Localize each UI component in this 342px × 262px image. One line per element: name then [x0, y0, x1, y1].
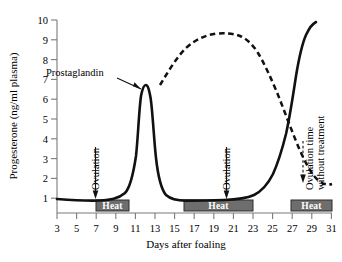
x-tick-label-3: 3 — [54, 223, 59, 234]
x-tick-label-29: 29 — [307, 223, 318, 234]
x-axis: 3 5 7 9 11 13 15 17 19 21 23 25 27 29 31… — [54, 213, 336, 250]
x-tick-label-27: 27 — [287, 223, 298, 234]
heat-band-1-label: Heat — [102, 201, 123, 211]
progesterone-chart: 10 9 8 7 6 5 4 3 2 1 Progesterone (ng/ml… — [0, 0, 342, 262]
x-tick-label-7: 7 — [94, 223, 99, 234]
y-tick-label-2: 2 — [43, 173, 48, 184]
x-tick-label-23: 23 — [248, 223, 259, 234]
x-axis-title: Days after foaling — [146, 238, 226, 250]
x-tick-label-25: 25 — [267, 223, 278, 234]
y-tick-label-5: 5 — [43, 114, 48, 125]
x-tick-label-31: 31 — [326, 223, 337, 234]
annotation-ovulation-1-arrowhead — [93, 191, 99, 200]
y-tick-label-10: 10 — [38, 15, 49, 26]
annotation-prostaglandin: Prostaglandin — [46, 67, 141, 89]
annotation-ovulation-2-arrowhead — [224, 191, 230, 200]
annotation-ovulation-without-treatment: Ovulation time without treatment — [300, 116, 326, 190]
x-tick-label-15: 15 — [169, 223, 180, 234]
annotation-ovulation-without-treatment-line1: Ovulation time — [304, 126, 315, 190]
y-tick-label-1: 1 — [43, 193, 48, 204]
x-tick-label-19: 19 — [209, 223, 220, 234]
y-tick-label-6: 6 — [43, 94, 48, 105]
annotation-ovulation-without-treatment-line2: without treatment — [315, 116, 326, 190]
annotation-prostaglandin-label: Prostaglandin — [46, 67, 104, 78]
y-axis: 10 9 8 7 6 5 4 3 2 1 Progesterone (ng/ml… — [7, 15, 57, 213]
x-tick-label-5: 5 — [74, 223, 79, 234]
x-tick-label-13: 13 — [150, 223, 161, 234]
annotation-ovulation-1: Ovulation — [90, 147, 101, 199]
chart-svg: 10 9 8 7 6 5 4 3 2 1 Progesterone (ng/ml… — [0, 0, 342, 262]
annotation-prostaglandin-arrowhead — [133, 82, 141, 89]
y-tick-label-4: 4 — [43, 134, 49, 145]
y-axis-title: Progesterone (ng/ml plasma) — [7, 52, 20, 179]
x-tick-label-11: 11 — [130, 223, 140, 234]
y-tick-label-3: 3 — [43, 154, 48, 165]
x-tick-label-21: 21 — [228, 223, 239, 234]
x-tick-label-17: 17 — [189, 223, 200, 234]
x-tick-label-9: 9 — [113, 223, 118, 234]
annotation-ovulation-2: Ovulation — [221, 147, 232, 199]
heat-band-2-label: Heat — [208, 201, 229, 211]
heat-bands: Heat Heat Heat — [96, 200, 332, 211]
heat-band-3-label: Heat — [301, 201, 322, 211]
y-tick-label-9: 9 — [43, 35, 48, 46]
y-tick-label-8: 8 — [43, 55, 48, 66]
